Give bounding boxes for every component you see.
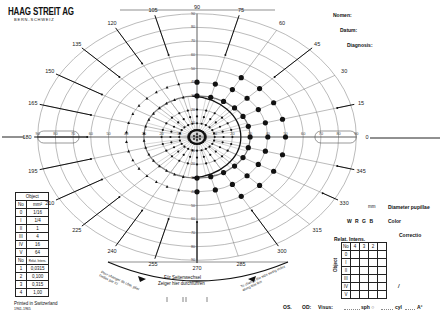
ri-cell[interactable] [369, 259, 378, 267]
small-dot [200, 149, 202, 151]
small-dot [196, 129, 198, 131]
vector-head [86, 136, 88, 138]
isopter-dot [280, 152, 285, 157]
sph-input[interactable] [381, 305, 393, 310]
isopter-dot [221, 99, 226, 104]
small-dot [194, 129, 196, 131]
ri-cell[interactable] [369, 251, 378, 259]
ri-cell[interactable] [378, 283, 387, 291]
ri-cell[interactable] [351, 251, 360, 259]
meridian-label: 300 [277, 248, 286, 254]
triangle-marker [146, 174, 149, 177]
vector-head [336, 165, 338, 167]
small-dot [213, 132, 215, 134]
vector-arrow [275, 48, 313, 77]
ri-cell[interactable] [351, 259, 360, 267]
ri-cell[interactable] [360, 291, 369, 299]
isopter-dot [283, 134, 288, 139]
meridian-label: 225 [72, 227, 81, 233]
meridian-label: 60 [279, 20, 285, 26]
ri-cell[interactable] [378, 291, 387, 299]
meridian-label: 45 [314, 41, 320, 47]
isopter-dot [221, 170, 226, 175]
isopter-dot [232, 163, 237, 168]
obj-head: mm² [26, 201, 49, 209]
obj-cell: 0,315 [26, 281, 49, 289]
isopter-dot [213, 81, 218, 86]
small-dot [187, 109, 189, 111]
obj-cell: 4 [16, 289, 27, 297]
isopter-dot [230, 182, 235, 187]
triangle-marker [146, 97, 149, 100]
obj-cell: 0,0315 [26, 265, 49, 273]
small-dot [161, 136, 163, 138]
small-dot [222, 131, 224, 133]
ri-cell[interactable] [351, 267, 360, 275]
meridian-label: 135 [72, 41, 81, 47]
small-dot [222, 141, 224, 143]
visus-input[interactable] [344, 305, 360, 310]
obj-cell: V [16, 249, 27, 257]
ri-cell[interactable] [378, 251, 387, 259]
ri-cell[interactable] [360, 259, 369, 267]
ri-cell[interactable] [360, 275, 369, 283]
v-tick-label: 60 [191, 217, 195, 221]
ri-row-label: I [342, 259, 351, 267]
cyl-input[interactable] [405, 305, 415, 310]
central-dot [196, 136, 198, 138]
small-dot [183, 154, 185, 156]
small-dot [198, 143, 200, 145]
isopter-dot [194, 189, 199, 194]
small-dot [200, 123, 202, 125]
obj-cell: 1/16 [26, 209, 49, 217]
vector-arrow [56, 179, 102, 200]
ri-cell[interactable] [378, 267, 387, 275]
small-dot [171, 155, 173, 157]
obj-cell: 16 [26, 241, 49, 249]
arc-arrow-left [138, 276, 146, 282]
h-tick-label: 60 [301, 132, 305, 136]
small-dot [205, 162, 207, 164]
v-tick-label: 90 [191, 258, 195, 262]
meridian-label: 180 [22, 134, 31, 140]
isopter-dot [256, 107, 261, 112]
ri-head: 4 [351, 243, 360, 251]
ri-cell[interactable] [378, 259, 387, 267]
isopter-dot [256, 162, 261, 167]
h-tick-label: 20 [230, 132, 234, 136]
triangle-marker [143, 139, 146, 142]
color-label: Color [388, 218, 401, 224]
isopter-dot [232, 105, 237, 110]
h-tick-label: 50 [106, 132, 110, 136]
h-tick-label: 80 [336, 132, 340, 136]
ri-cell[interactable] [369, 275, 378, 283]
vector-head [196, 221, 198, 223]
meridian-label: 105 [148, 7, 157, 13]
small-dot [205, 148, 207, 150]
vector-arrow [40, 104, 91, 115]
ri-cell[interactable] [351, 283, 360, 291]
ri-cell[interactable] [369, 291, 378, 299]
small-dot [183, 146, 185, 148]
meridian-label: 75 [238, 7, 244, 13]
ri-cell[interactable] [351, 291, 360, 299]
vector-arrow [116, 28, 143, 64]
small-dot [219, 126, 221, 128]
obj-cell: II [16, 225, 27, 233]
ri-cell[interactable] [378, 275, 387, 283]
ri-cell[interactable] [360, 251, 369, 259]
small-dot [177, 150, 179, 152]
small-dot [165, 150, 167, 152]
ri-cell[interactable] [360, 267, 369, 275]
sph-label: sph ○ [361, 304, 374, 310]
ri-cell[interactable] [369, 267, 378, 275]
small-dot [194, 143, 196, 145]
ri-cell[interactable] [351, 275, 360, 283]
small-dot [208, 126, 210, 128]
h-tick-label: 70 [71, 132, 75, 136]
ri-cell[interactable] [369, 283, 378, 291]
small-dot [214, 112, 216, 114]
color-options: W R G B [347, 218, 374, 224]
ri-cell[interactable] [360, 283, 369, 291]
object-table: Object Nomm² 01/16 I1/4 II1 III4 IV16 V6… [15, 192, 49, 297]
